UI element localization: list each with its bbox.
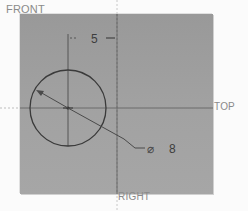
diameter-dimension-value[interactable]: 8 — [169, 143, 176, 155]
right-plane-label[interactable]: RIGHT — [118, 192, 150, 202]
offset-dimension-value[interactable]: 5 — [91, 33, 98, 45]
diameter-arrow — [36, 90, 44, 96]
top-plane-label[interactable]: TOP — [214, 102, 235, 112]
diameter-leader-line — [40, 92, 145, 148]
diameter-symbol[interactable]: ⌀ — [147, 143, 154, 155]
sketch-geometry — [0, 0, 248, 211]
